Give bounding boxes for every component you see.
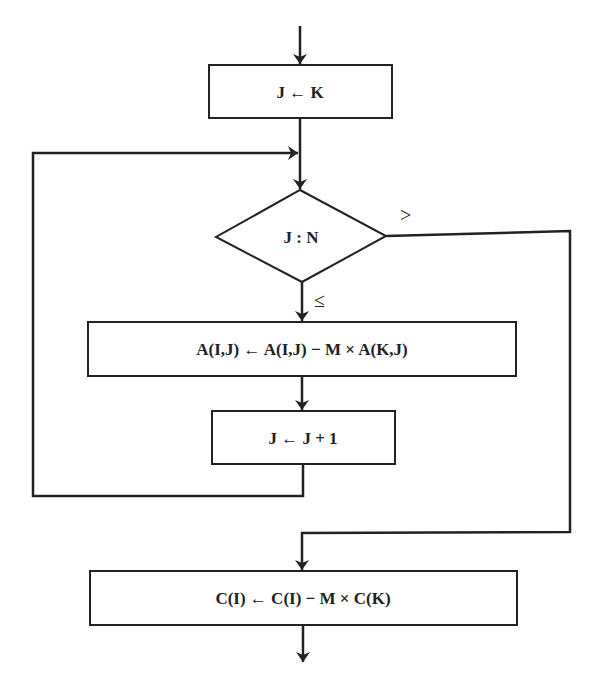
gt-branch-line [302,231,570,570]
flowchart: J ← K J : N A(I,J) ← A(I,J) − M × A(K,J)… [0,0,592,687]
update-a-label: A(I,J) ← A(I,J) − M × A(K,J) [196,340,408,359]
decision-label: J : N [284,228,320,247]
init-label: J ← K [276,83,324,102]
increment-label: J ← J + 1 [268,429,337,448]
update-c-label: C(I) ← C(I) − M × C(K) [215,589,390,608]
gt-branch-label: > [400,204,411,226]
loop-back-line [33,153,303,496]
le-branch-label: ≤ [314,289,325,311]
